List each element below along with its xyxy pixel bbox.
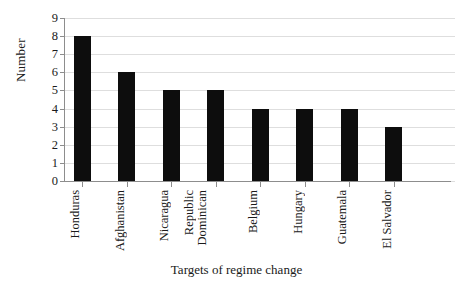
y-tick-label-wrapper: 0 xyxy=(36,175,58,187)
y-axis-line xyxy=(64,18,65,182)
y-tick-label: 4 xyxy=(40,103,58,115)
y-tick-label: 2 xyxy=(40,139,58,151)
x-tick-label-line: Honduras xyxy=(69,190,82,239)
y-tick-label: 7 xyxy=(40,48,58,60)
y-tick-mark xyxy=(60,163,64,164)
y-tick-mark xyxy=(60,72,64,73)
bar xyxy=(385,127,402,181)
gridline xyxy=(64,18,455,19)
y-tick-label-wrapper: 8 xyxy=(36,30,58,42)
y-tick-label-wrapper: 2 xyxy=(36,139,58,151)
y-tick-label-wrapper: 4 xyxy=(36,103,58,115)
y-tick-label-wrapper: 9 xyxy=(36,12,58,24)
bar-chart: Number 0123456789 HondurasAfghanistanNic… xyxy=(0,0,473,283)
gridline xyxy=(64,36,455,37)
y-tick-label: 6 xyxy=(40,66,58,78)
y-tick-label-wrapper: 3 xyxy=(36,121,58,133)
y-tick-label: 1 xyxy=(40,157,58,169)
x-axis-title: Targets of regime change xyxy=(0,262,473,278)
y-tick-label-wrapper: 5 xyxy=(36,84,58,96)
y-tick-mark xyxy=(60,127,64,128)
x-tick-label-line: Afghanistan xyxy=(114,190,127,251)
y-tick-mark xyxy=(60,90,64,91)
gridline xyxy=(64,54,455,55)
x-tick-mark xyxy=(216,182,217,187)
x-tick-mark xyxy=(349,182,350,187)
y-tick-mark xyxy=(60,54,64,55)
plot-area xyxy=(64,18,455,181)
y-tick-label: 5 xyxy=(40,84,58,96)
x-tick-mark xyxy=(394,182,395,187)
y-tick-label: 0 xyxy=(40,175,58,187)
x-tick-label-line: Guatemala xyxy=(336,190,349,244)
y-tick-label-wrapper: 6 xyxy=(36,66,58,78)
y-tick-mark xyxy=(60,18,64,19)
y-tick-mark xyxy=(60,109,64,110)
y-tick-mark xyxy=(60,181,64,182)
x-tick-label-line: El Salvador xyxy=(381,190,394,249)
x-tick-mark xyxy=(171,182,172,187)
x-tick-label-line: Nicaragua xyxy=(158,190,171,241)
y-tick-label: 9 xyxy=(40,12,58,24)
y-axis-title: Number xyxy=(13,0,29,82)
x-tick-label-line: Belgium xyxy=(247,190,260,233)
x-tick-mark xyxy=(305,182,306,187)
bar xyxy=(163,90,180,181)
y-tick-label-wrapper: 7 xyxy=(36,48,58,60)
y-tick-mark xyxy=(60,36,64,37)
y-tick-label: 3 xyxy=(40,121,58,133)
x-tick-mark xyxy=(127,182,128,187)
bar xyxy=(252,109,269,181)
x-tick-label-line: Hungary xyxy=(292,190,305,234)
x-tick-mark xyxy=(260,182,261,187)
y-tick-label-wrapper: 1 xyxy=(36,157,58,169)
x-tick-label-line: Republic xyxy=(183,190,196,235)
bar xyxy=(341,109,358,181)
bar xyxy=(74,36,91,181)
x-tick-label-line: Dominican xyxy=(196,190,209,246)
bar xyxy=(296,109,313,181)
y-tick-label: 8 xyxy=(40,30,58,42)
y-tick-mark xyxy=(60,145,64,146)
x-tick-mark xyxy=(82,182,83,187)
bar xyxy=(118,72,135,181)
bar xyxy=(207,90,224,181)
